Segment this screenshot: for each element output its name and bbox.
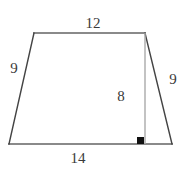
label-height: 8 — [117, 89, 125, 104]
right-angle-marker-icon — [137, 137, 144, 144]
label-top-side: 12 — [86, 16, 101, 31]
right-leg-edge — [145, 33, 172, 144]
label-right-side: 9 — [169, 72, 177, 87]
label-left-side: 9 — [10, 61, 18, 76]
label-bottom-side: 14 — [71, 151, 86, 166]
left-leg-edge — [9, 33, 34, 144]
geometry-figure-canvas: 12 9 9 8 14 — [0, 0, 190, 169]
